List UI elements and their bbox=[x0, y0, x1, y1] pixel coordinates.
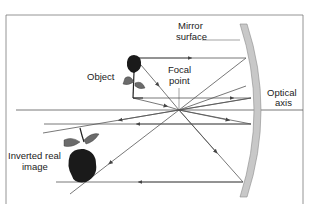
inverted-image-label-1: Inverted real bbox=[8, 150, 61, 161]
concave-mirror bbox=[240, 24, 261, 197]
optical-axis-label-2: axis bbox=[275, 97, 292, 108]
mirror-surface-label-2: surface bbox=[176, 31, 207, 42]
focal-point-label-2: point bbox=[169, 75, 190, 86]
object-label: Object bbox=[87, 71, 114, 82]
object-flower-icon bbox=[123, 55, 145, 98]
mirror-surface-label-1: Mirror bbox=[178, 20, 203, 31]
inverted-image-label-2: image bbox=[22, 161, 48, 172]
ray-diagram bbox=[0, 0, 311, 204]
focal-point-label-1: Focal bbox=[168, 64, 191, 75]
inverted-image-flower-icon bbox=[64, 128, 99, 182]
